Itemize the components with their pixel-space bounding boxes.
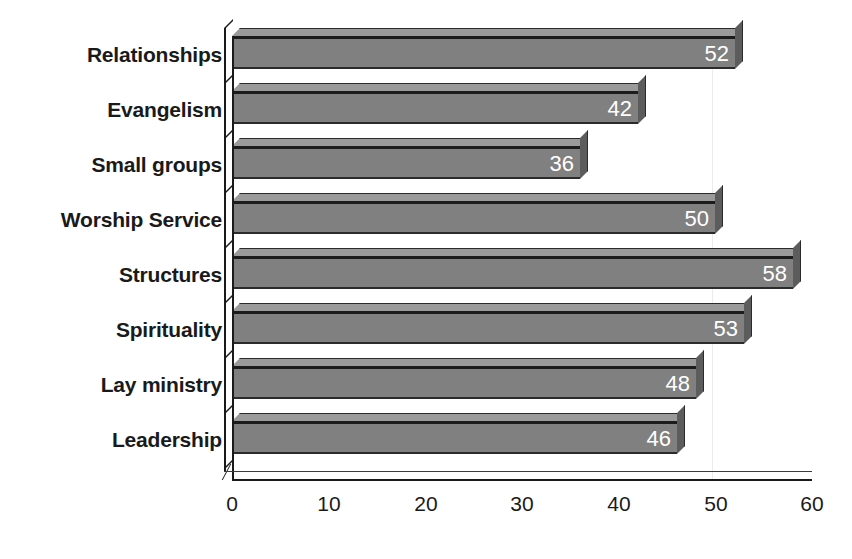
bar-side-face [744, 295, 752, 344]
bar-value-label: 53 [692, 313, 738, 344]
bar-value-label: 52 [683, 38, 729, 69]
bar-value-label: 46 [625, 423, 671, 454]
x-tick-label-10: 10 [309, 493, 349, 514]
bar-front-face [232, 91, 638, 124]
x-tick-label-40: 40 [599, 493, 639, 514]
x-tick-label-30: 30 [502, 493, 542, 514]
x-tick-label-50: 50 [696, 493, 736, 514]
bar-front-face [232, 366, 696, 399]
x-axis-line [232, 479, 812, 481]
bar-top-face [232, 83, 646, 91]
bar-value-label: 48 [644, 368, 690, 399]
x-tick-label-20: 20 [406, 493, 446, 514]
bar-value-label: 58 [741, 258, 787, 289]
bar-top-face [232, 358, 704, 366]
bar-front-face [232, 256, 793, 289]
bar-top-face [232, 138, 588, 146]
bar-value-label: 50 [663, 203, 709, 234]
bar-front-face [232, 201, 715, 234]
bar-top-face [232, 193, 723, 201]
y-axis-front-line [232, 36, 234, 480]
bar-side-face [677, 405, 685, 454]
plot-area: 52 42 36 50 58 [0, 0, 852, 559]
x-tick-label-0: 0 [212, 493, 252, 514]
bar-top-face [232, 28, 743, 36]
bar-side-face [696, 350, 704, 399]
bar-top-face [232, 413, 685, 421]
x-axis-back-line [224, 471, 812, 472]
bar-side-face [638, 75, 646, 124]
bar-side-face [735, 20, 743, 69]
bar-front-face [232, 311, 744, 344]
bar-chart: Relationships Evangelism Small groups Wo… [0, 0, 852, 559]
bar-side-face [580, 130, 588, 179]
bar-value-label: 36 [528, 148, 574, 179]
bar-side-face [715, 185, 723, 234]
bar-value-label: 42 [586, 93, 632, 124]
y-axis-tick [224, 19, 233, 30]
bar-front-face [232, 421, 677, 454]
bar-top-face [232, 303, 752, 311]
bar-front-face [232, 36, 735, 69]
bar-top-face [232, 248, 801, 256]
x-tick-label-60: 60 [792, 493, 832, 514]
y-axis-back-line [224, 28, 226, 472]
bar-side-face [793, 240, 801, 289]
